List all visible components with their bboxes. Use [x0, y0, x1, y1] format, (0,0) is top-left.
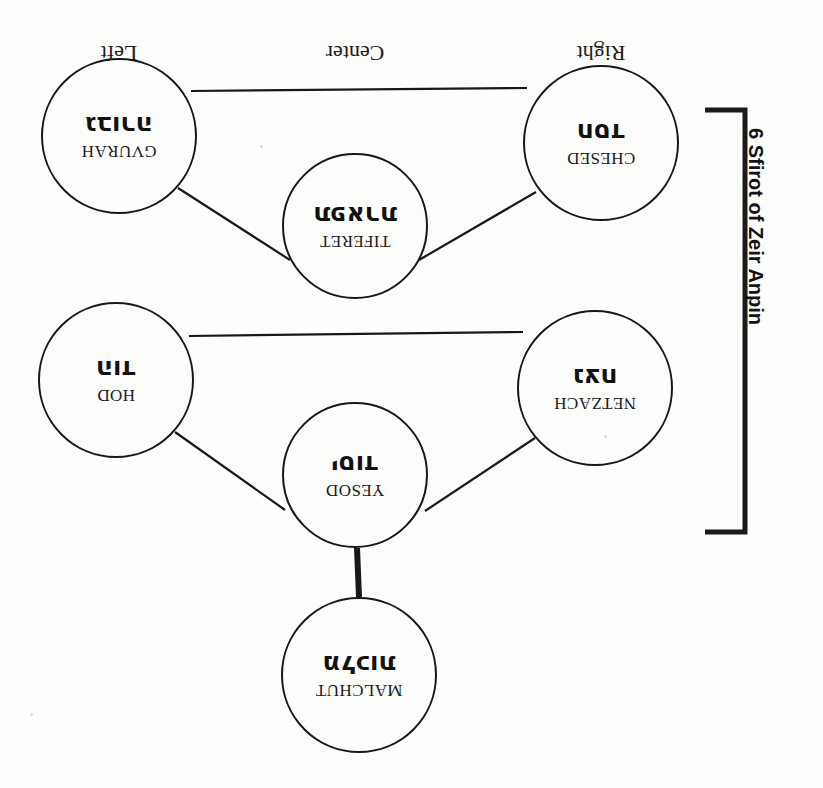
sefira-node-chesed[interactable]: CHESED חסד — [523, 65, 679, 221]
sefira-node-netzach[interactable]: NETZACH נצח — [517, 310, 673, 466]
scan-speck — [604, 435, 607, 438]
sefira-latin-name: MALCHUT — [316, 681, 403, 699]
sefira-latin-name: HOD — [97, 386, 135, 404]
sefira-hebrew-name: מלכות — [322, 651, 395, 677]
connector-chesed-gvurah — [191, 88, 527, 91]
sefira-hebrew-name: הוד — [96, 356, 136, 382]
connector-tiferet-gvurah — [178, 188, 290, 260]
scan-speck — [30, 713, 33, 716]
sefira-hebrew-name: נצח — [573, 364, 618, 390]
sefira-latin-name: CHESED — [567, 149, 636, 167]
connector-yesod-netzach — [425, 438, 535, 511]
sefira-hebrew-name: תפארת — [313, 202, 397, 228]
connector-netzach-hod — [189, 332, 523, 336]
column-label-center: Center — [305, 40, 405, 66]
connector-malchut-yesod — [357, 548, 359, 597]
sefira-node-gvurah[interactable]: GVURAH גבורה — [41, 58, 197, 214]
sefira-latin-name: YESOD — [326, 481, 385, 499]
sefira-node-yesod[interactable]: YESOD יסוד — [282, 402, 428, 548]
sefira-node-tiferet[interactable]: TIFERET תפארת — [282, 153, 428, 299]
sefira-node-hod[interactable]: HOD הוד — [38, 302, 194, 458]
sefira-hebrew-name: חסד — [577, 119, 626, 145]
column-label-left: Left — [69, 40, 169, 66]
sefira-latin-name: TIFERET — [320, 232, 391, 250]
connector-tiferet-chesed — [419, 192, 536, 260]
scan-speck — [260, 145, 263, 148]
sefira-hebrew-name: יסוד — [331, 451, 379, 477]
group-bracket — [705, 110, 745, 532]
sefira-latin-name: NETZACH — [554, 394, 636, 412]
group-bracket-label: 6 Sfirot of Zeir Anpin — [744, 128, 767, 325]
sefira-latin-name: GVURAH — [81, 142, 156, 160]
sefira-hebrew-name: גבורה — [85, 112, 152, 138]
column-label-right: Right — [551, 40, 651, 66]
sefira-node-malchut[interactable]: MALCHUT מלכות — [281, 597, 437, 753]
scanned-page: MALCHUT מלכות YESOD יסוד NETZACH נצח HOD… — [0, 0, 823, 788]
connector-yesod-hod — [175, 432, 285, 510]
